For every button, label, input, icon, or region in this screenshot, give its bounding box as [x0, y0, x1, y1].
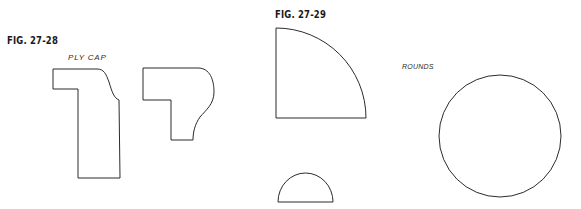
full-round [439, 75, 561, 197]
ply-cap-profile-2 [143, 68, 214, 140]
half-round [278, 173, 333, 202]
molding-drawings [0, 0, 581, 209]
quarter-round [276, 28, 366, 118]
ply-cap-profile-1 [53, 69, 120, 178]
